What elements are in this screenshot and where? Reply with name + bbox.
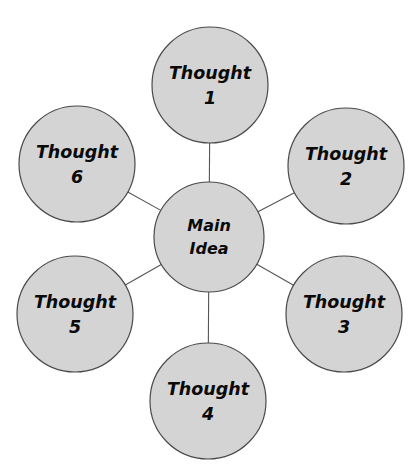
main-idea-label-line2: Idea xyxy=(189,239,228,258)
thought-6-label-line2: 6 xyxy=(71,167,83,187)
thought-1-circle[interactable] xyxy=(152,27,268,143)
thought-2-label-line2: 2 xyxy=(340,169,352,189)
thought-1-label-line2: 1 xyxy=(204,88,216,108)
node-thought-5[interactable]: Thought5 xyxy=(17,256,133,372)
node-layer: Thought1Thought2Thought3Thought4Thought5… xyxy=(17,27,404,459)
node-thought-6[interactable]: Thought6 xyxy=(19,106,135,222)
thought-2-label-line1: Thought xyxy=(305,144,388,164)
node-main-idea[interactable]: MainIdea xyxy=(154,182,264,292)
thought-3-circle[interactable] xyxy=(286,256,402,372)
node-thought-4[interactable]: Thought4 xyxy=(150,343,266,459)
thought-5-circle[interactable] xyxy=(17,256,133,372)
thought-5-label-line2: 5 xyxy=(69,317,81,337)
connector-main-to-thought-6 xyxy=(127,192,162,211)
thought-4-label-line1: Thought xyxy=(167,379,250,399)
thought-5-label-line1: Thought xyxy=(34,292,117,312)
node-thought-3[interactable]: Thought3 xyxy=(286,256,402,372)
thought-4-circle[interactable] xyxy=(150,343,266,459)
thought-3-label-line1: Thought xyxy=(303,292,386,312)
main-idea-circle[interactable] xyxy=(154,182,264,292)
diagram-canvas: Thought1Thought2Thought3Thought4Thought5… xyxy=(0,0,417,472)
thought-1-label-line1: Thought xyxy=(169,63,252,83)
connector-main-to-thought-5 xyxy=(124,264,162,286)
node-thought-1[interactable]: Thought1 xyxy=(152,27,268,143)
thought-2-circle[interactable] xyxy=(288,108,404,224)
thought-6-label-line1: Thought xyxy=(36,142,119,162)
node-thought-2[interactable]: Thought2 xyxy=(288,108,404,224)
mind-map-diagram: Thought1Thought2Thought3Thought4Thought5… xyxy=(0,0,417,472)
connector-main-to-thought-3 xyxy=(256,264,295,286)
thought-3-label-line2: 3 xyxy=(338,317,350,337)
thought-6-circle[interactable] xyxy=(19,106,135,222)
main-idea-label-line1: Main xyxy=(187,216,231,235)
thought-4-label-line2: 4 xyxy=(201,404,214,424)
connector-main-to-thought-2 xyxy=(257,192,295,212)
